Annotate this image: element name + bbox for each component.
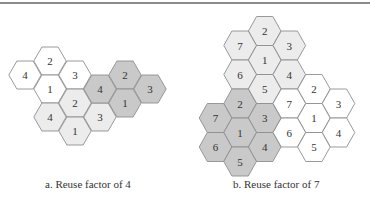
caption-reuse-factor-4: a. Reuse factor of 4 (45, 178, 131, 190)
hex-cell-label: 6 (237, 69, 243, 81)
hex-cell-label: 3 (287, 40, 293, 52)
reuse-factor-4-diagram: 421342134213 (9, 47, 166, 145)
hex-cell-label: 4 (22, 69, 28, 81)
hex-cell-label: 2 (47, 55, 53, 67)
hex-cell-label: 6 (213, 141, 219, 153)
hex-cell-label: 3 (72, 69, 78, 81)
hex-cell-label: 2 (72, 97, 78, 109)
hex-cell-label: 6 (287, 127, 293, 139)
hex-cell-label: 5 (237, 156, 243, 168)
hex-cell-label: 1 (237, 127, 243, 139)
hex-cell-label: 3 (97, 111, 103, 123)
hex-cell-label: 3 (262, 112, 268, 124)
hex-cell-label: 4 (97, 83, 103, 95)
hex-cell-label: 7 (237, 40, 243, 52)
hex-cell-label: 7 (287, 98, 293, 110)
hex-cell-label: 1 (311, 112, 317, 124)
hex-cell-label: 1 (122, 97, 128, 109)
caption-reuse-factor-7: b. Reuse factor of 7 (233, 178, 319, 190)
hex-cell-label: 1 (262, 54, 268, 66)
hex-cell-label: 7 (213, 112, 219, 124)
hex-cell-label: 3 (147, 83, 153, 95)
hex-cell-label: 2 (122, 69, 128, 81)
hex-cell-label: 5 (262, 83, 268, 95)
hex-cell-label: 4 (47, 111, 53, 123)
hex-cell-label: 5 (311, 141, 317, 153)
hex-cell-label: 1 (47, 83, 53, 95)
hex-cell-label: 3 (336, 98, 342, 110)
hex-cell-label: 4 (336, 127, 342, 139)
hex-cell-label: 1 (72, 125, 78, 137)
reuse-factor-7-diagram: 273164527316452731645 (199, 17, 355, 177)
hex-cell-label: 2 (262, 25, 268, 37)
hexagonal-cell-diagram: 421342134213 273164527316452731645 (0, 0, 370, 204)
hex-cell-label: 4 (287, 69, 293, 81)
hex-cell-label: 2 (237, 98, 243, 110)
hex-cell-label: 2 (311, 83, 317, 95)
hex-cell-label: 4 (262, 141, 268, 153)
